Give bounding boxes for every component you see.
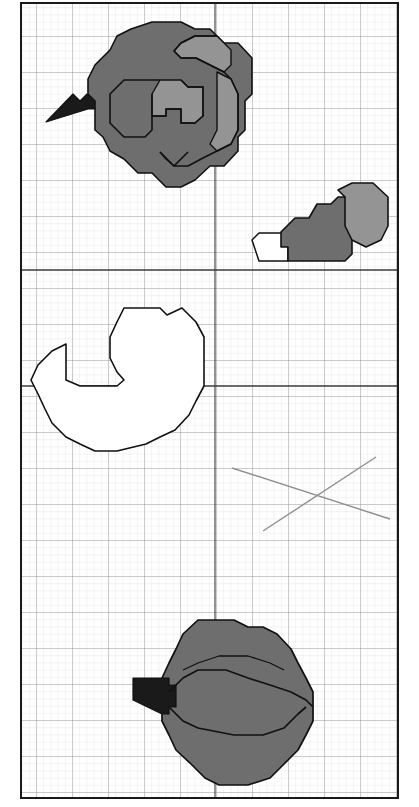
graph-paper-chart xyxy=(0,0,419,807)
chart-page xyxy=(0,0,419,807)
